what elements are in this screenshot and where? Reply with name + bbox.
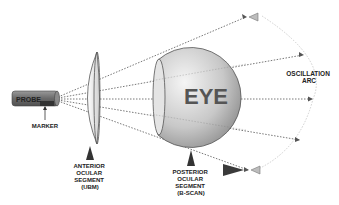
oscillation-arc	[256, 16, 316, 170]
anterior-lens	[88, 52, 101, 144]
marker-pointer: MARKER	[32, 106, 59, 129]
arc-top-triangle	[249, 13, 258, 21]
marker-label: MARKER	[32, 123, 59, 129]
probe-label: PROBE	[16, 96, 41, 103]
probe-marker	[40, 101, 54, 106]
eye-cornea	[153, 59, 165, 135]
anterior-pointer: ANTERIOR OCULAR SEGMENT (UBM)	[73, 146, 106, 190]
oscillation-arc-label: OSCILLATION ARC	[286, 70, 331, 84]
eye-globe: EYE	[153, 48, 241, 148]
probe: PROBE	[12, 91, 60, 106]
posterior-label: POSTERIOR OCULAR SEGMENT (B-SCAN)	[172, 169, 209, 196]
posterior-pointer: POSTERIOR OCULAR SEGMENT (B-SCAN)	[172, 150, 209, 196]
eye-label: EYE	[184, 84, 228, 109]
scan-direction-triangle	[223, 164, 244, 176]
ultrasound-diagram: EYE PROBE MARKER ANTERIOR OCULAR SEGMENT…	[0, 0, 339, 205]
beam-arrowheads	[242, 14, 313, 172]
anterior-label: ANTERIOR OCULAR SEGMENT (UBM)	[73, 163, 106, 190]
arc-bottom-triangle	[251, 166, 260, 174]
